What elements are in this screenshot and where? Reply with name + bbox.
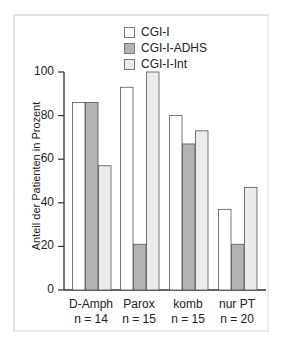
category-n: n = 15	[164, 312, 212, 327]
x-category-label: Paroxn = 15	[115, 297, 163, 327]
y-tick-label: 80	[28, 108, 54, 122]
bar	[232, 244, 245, 290]
bar	[121, 87, 134, 290]
x-category-label: D-Amphn = 14	[67, 297, 115, 327]
y-tick-label: 60	[28, 151, 54, 165]
category-n: n = 15	[115, 312, 163, 327]
x-category-label: kombn = 15	[164, 297, 212, 327]
bar	[99, 166, 112, 290]
bar	[245, 188, 258, 290]
y-tick-label: 20	[28, 238, 54, 252]
bar	[86, 103, 99, 290]
bar	[183, 144, 196, 290]
category-name: D-Amph	[67, 297, 115, 312]
bar	[147, 72, 160, 290]
category-n: n = 20	[213, 312, 261, 327]
category-n: n = 14	[67, 312, 115, 327]
x-category-label: nur PTn = 20	[213, 297, 261, 327]
category-name: komb	[164, 297, 212, 312]
bar	[219, 209, 232, 290]
y-tick-label: 0	[28, 282, 54, 296]
bar	[170, 116, 183, 290]
category-name: nur PT	[213, 297, 261, 312]
bar	[196, 131, 209, 290]
bar	[73, 103, 86, 290]
category-name: Parox	[115, 297, 163, 312]
y-tick-label: 100	[28, 64, 54, 78]
y-tick-label: 40	[28, 195, 54, 209]
bar	[134, 244, 147, 290]
